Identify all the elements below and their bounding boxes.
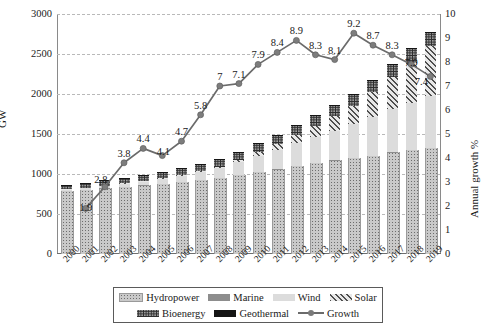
y-tick-label-right: 8 [445,57,450,67]
growth-label-2017: 8.3 [386,40,399,51]
y-tick-label-left: 2500 [31,49,52,59]
growth-label-2004: 4.4 [137,133,150,144]
legend-label: Wind [298,292,321,303]
y-tick-label-right: 3 [445,177,450,187]
legend-label: Bioenergy [162,308,206,319]
growth-label-2013: 8.3 [309,40,322,51]
legend-label: Geothermal [239,308,289,319]
y-axis-left-ticks: 300025002000150010005000 [0,14,52,254]
growth-label-2006: 4.7 [175,126,188,137]
growth-label-2018: 7.9 [405,57,418,68]
legend-swatch-geothermal-icon [214,310,236,317]
y-axis-right-ticks: 109876543210 [445,14,467,254]
y-tick-label-right: 0 [445,249,450,259]
legend-row-secondary: BioenergyGeothermalGrowth [114,305,382,321]
y-tick-label-right: 7 [445,81,450,91]
y-tick-label-right: 5 [445,129,450,139]
growth-label-2007: 5.8 [194,100,207,111]
y-tick-label-right: 4 [445,153,450,163]
y-tick-label-right: 9 [445,33,450,43]
y-axis-right-title: Annual growth % [468,140,480,218]
y-tick-label-right: 10 [445,9,456,19]
renewable-capacity-chart: 300025002000150010005000 109876543210 GW… [0,0,492,327]
y-tick-label-left: 3000 [31,9,52,19]
legend-label: Solar [355,292,377,303]
legend-row-primary: HydropowerMarineWindSolar [114,289,382,305]
growth-line [57,14,440,254]
legend-label: Marine [233,292,263,303]
y-tick-label-left: 1500 [31,129,52,139]
growth-label-2001: 1.9 [79,202,92,213]
legend-label: Hydropower [146,292,199,303]
growth-label-2009: 7.1 [232,69,245,80]
growth-label-2019: 7.4 [415,76,428,87]
legend-item-growth[interactable]: Growth [298,308,359,319]
growth-label-2010: 7.9 [252,49,265,60]
y-tick-label-right: 2 [445,201,450,211]
y-tick-label-left: 2000 [31,89,52,99]
y-tick-label-right: 6 [445,105,450,115]
growth-label-2016: 8.7 [366,30,379,41]
y-tick-label-left: 0 [47,249,52,259]
plot-area: 1.92.83.84.44.14.75.877.17.98.48.98.38.1… [57,14,440,254]
legend-swatch-bioenergy-icon [137,310,159,317]
y-tick-label-left: 500 [36,209,52,219]
chart-legend: HydropowerMarineWindSolar BioenergyGeoth… [113,287,383,323]
legend-item-bioenergy[interactable]: Bioenergy [137,308,206,319]
legend-swatch-solar-icon [330,294,352,301]
legend-swatch-growth-icon [298,309,324,317]
legend-label: Growth [327,308,359,319]
legend-swatch-marine-icon [208,294,230,301]
growth-label-2005: 4.1 [157,146,170,157]
growth-label-2011: 8.4 [271,37,284,48]
legend-item-hydropower[interactable]: Hydropower [119,292,199,303]
growth-label-2008: 7 [217,71,222,82]
legend-item-geothermal[interactable]: Geothermal [214,308,289,319]
growth-label-2002: 2.8 [94,174,107,185]
growth-label-2015: 9.2 [347,18,360,29]
y-tick-label-right: 1 [445,225,450,235]
legend-swatch-hydropower-icon [119,293,143,302]
legend-item-solar[interactable]: Solar [330,292,377,303]
growth-label-2012: 8.9 [290,25,303,36]
legend-swatch-wind-icon [273,294,295,301]
plot-right-axis [440,14,441,254]
y-axis-left-title: GW [0,110,8,128]
growth-label-2014: 8.1 [328,45,341,56]
legend-item-marine[interactable]: Marine [208,292,263,303]
legend-item-wind[interactable]: Wind [273,292,321,303]
y-tick-label-left: 1000 [31,169,52,179]
x-axis-tick-labels: 2000200120022003200420052006200720082009… [57,255,441,289]
growth-label-2003: 3.8 [117,148,130,159]
